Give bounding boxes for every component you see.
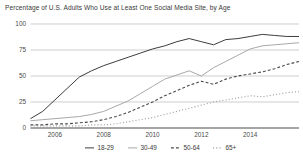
social-media-usage-chart: Percentage of U.S. Adults Who Use at Lea… [0, 0, 303, 162]
legend-label-18-29: 18-29 [98, 144, 115, 151]
series-line-30-49 [31, 43, 300, 121]
x-tick-2012: 2012 [194, 131, 209, 138]
x-axis-tick-labels: 20062008201020122014 [48, 131, 258, 138]
x-tick-2008: 2008 [97, 131, 112, 138]
y-tick-50: 50 [19, 72, 27, 79]
y-tick-0: 0 [22, 124, 26, 131]
y-tick-100: 100 [15, 20, 26, 27]
y-tick-25: 25 [19, 98, 27, 105]
data-series-lines [31, 34, 300, 126]
gridlines [31, 24, 300, 128]
y-axis-tick-labels: 0255075100 [15, 20, 26, 131]
y-tick-75: 75 [19, 46, 27, 53]
x-tick-2014: 2014 [243, 131, 258, 138]
series-line-50-64 [31, 61, 300, 124]
chart-legend: 18-2930-4950-6465+ [85, 144, 237, 151]
legend-label-65plus: 65+ [226, 144, 237, 151]
x-tick-2006: 2006 [48, 131, 63, 138]
chart-plot-area: 0255075100 20062008201020122014 18-2930-… [0, 0, 303, 162]
legend-label-30-49: 30-49 [141, 144, 158, 151]
x-tick-2010: 2010 [145, 131, 160, 138]
legend-label-50-64: 50-64 [184, 144, 201, 151]
series-line-65plus [31, 92, 300, 126]
